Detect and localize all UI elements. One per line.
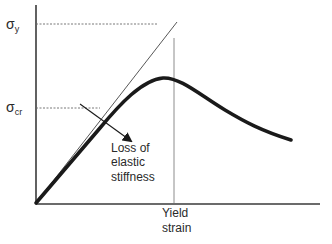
annotation-line-2: elastic bbox=[111, 155, 145, 169]
yield-strain-label-line-1: Yield bbox=[162, 206, 188, 220]
yield-strain-label-line-2: strain bbox=[162, 221, 191, 235]
annotation-line-3: stiffness bbox=[111, 170, 155, 184]
stress-strain-curve bbox=[36, 78, 291, 203]
sigma-y-label: σy bbox=[6, 16, 20, 34]
annotation-arrow bbox=[80, 104, 131, 141]
stress-strain-diagram: σy σcr Loss of elastic stiffness Yield s… bbox=[0, 0, 332, 244]
sigma-cr-label: σcr bbox=[6, 99, 22, 117]
annotation-line-1: Loss of bbox=[111, 141, 150, 155]
